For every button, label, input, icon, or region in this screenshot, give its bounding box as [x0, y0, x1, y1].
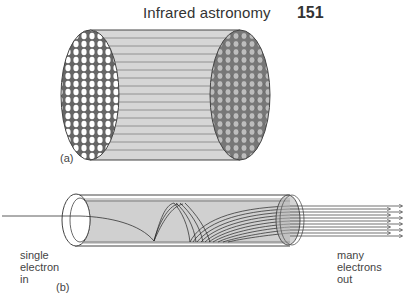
output-label-line: electrons — [337, 261, 382, 273]
input-label-line: single — [20, 249, 59, 261]
input-label: single electron in — [20, 249, 59, 285]
input-label-line: electron — [20, 261, 59, 273]
output-label-line: out — [337, 273, 382, 285]
microchannel-plate-drawing — [58, 28, 274, 162]
output-label: many electrons out — [337, 249, 382, 285]
channel-multiplier-drawing — [2, 194, 402, 246]
input-label-line: in — [20, 273, 59, 285]
output-label-line: many — [337, 249, 382, 261]
panel-a-label: (a) — [60, 152, 73, 164]
